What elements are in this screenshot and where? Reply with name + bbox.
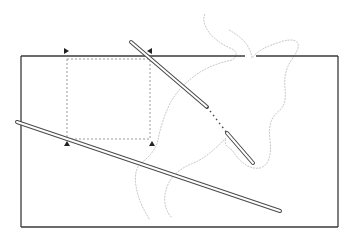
background [0, 0, 358, 237]
site-diagram [0, 0, 358, 237]
